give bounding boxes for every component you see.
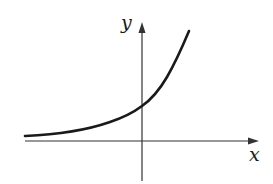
graph-canvas <box>0 0 273 184</box>
y-axis-label: y <box>121 13 132 32</box>
exponential-graph-figure: y x <box>0 0 273 184</box>
exponential-curve <box>25 31 189 136</box>
x-axis-label: x <box>249 145 260 164</box>
y-axis-arrow-icon <box>139 22 146 33</box>
